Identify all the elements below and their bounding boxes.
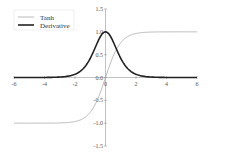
y-tick-label: 0.5 [96,52,104,58]
x-tick-label: -4 [42,81,47,87]
tanh-chart: -6-4-202461.51.00.50.0-0.5-1.0-1.5 Tanh … [0,0,231,154]
legend-label-tanh: Tanh [40,14,54,22]
y-tick-label: -1.5 [94,143,104,149]
y-tick-label: -1.0 [94,120,104,126]
y-tick-label: 0.0 [96,75,104,81]
x-tick-label: 6 [196,81,199,87]
legend-label-derivative: Derivative [40,22,70,30]
x-tick-label: -6 [12,81,17,87]
x-tick-label: -2 [73,81,78,87]
y-tick-label: 1.5 [96,6,104,12]
x-tick-label: 4 [165,81,168,87]
x-tick-label: 2 [135,81,138,87]
legend: Tanh Derivative [14,10,74,30]
